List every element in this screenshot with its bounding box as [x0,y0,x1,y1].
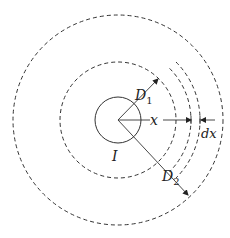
label-x: x [150,112,158,128]
label-d2: D2 [161,168,180,187]
label-dx: dx [201,126,217,141]
label-d1: D1 [134,87,153,106]
label-i: I [111,148,118,164]
coaxial-diagram: D1 x dx I D2 [0,0,230,238]
